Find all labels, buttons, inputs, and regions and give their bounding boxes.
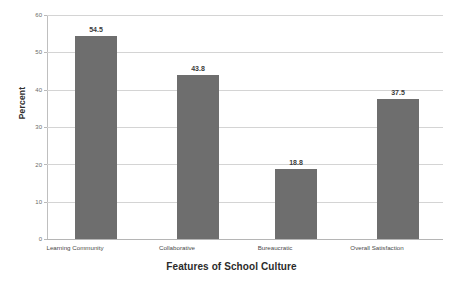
y-tick-label-50: 50 (22, 49, 42, 55)
bar-value-collaborative: 43.8 (168, 65, 228, 72)
x-category-label-bureaucratic: Bureaucratic (220, 244, 330, 251)
y-tick-label-20: 20 (22, 162, 42, 168)
y-tickmark-10 (44, 202, 47, 203)
plot-area (47, 15, 443, 239)
y-tick-label-10: 10 (22, 199, 42, 205)
y-tickmark-20 (44, 164, 47, 165)
y-tickmark-60 (44, 15, 47, 16)
y-tickmark-30 (44, 127, 47, 128)
y-tickmark-0 (44, 239, 47, 240)
bar-bureaucratic[interactable] (275, 169, 317, 239)
bar-learning-community[interactable] (75, 36, 117, 239)
y-tickmark-40 (44, 90, 47, 91)
x-category-label-learning-community: Learning Community (20, 244, 130, 251)
bar-value-overall-satisfaction: 37.5 (368, 89, 428, 96)
bar-chart: Percent 60 50 40 30 20 10 0 54.5 43.8 18… (0, 0, 463, 283)
x-category-label-overall-satisfaction: Overall Satisfaction (322, 244, 432, 251)
bar-value-learning-community: 54.5 (66, 26, 126, 33)
x-category-label-collaborative: Collaborative (122, 244, 232, 251)
x-axis-title: Features of School Culture (0, 261, 463, 272)
y-tick-label-60: 60 (22, 12, 42, 18)
y-tick-label-40: 40 (22, 87, 42, 93)
y-tick-label-30: 30 (22, 124, 42, 130)
y-tickmark-50 (44, 52, 47, 53)
bar-collaborative[interactable] (177, 75, 219, 239)
bar-value-bureaucratic: 18.8 (266, 159, 326, 166)
gridline-60 (47, 15, 443, 16)
x-axis-line (47, 239, 443, 240)
y-tick-label-0: 0 (22, 236, 42, 242)
bar-overall-satisfaction[interactable] (377, 99, 419, 239)
